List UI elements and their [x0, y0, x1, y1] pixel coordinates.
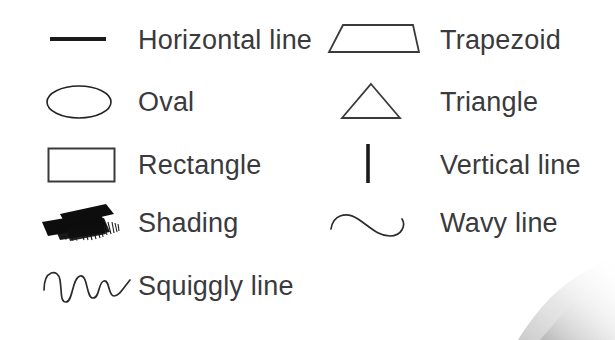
legend-label-rectangle: Rectangle — [138, 147, 261, 183]
rectangle-icon — [40, 145, 122, 185]
legend-label-vertical-line: Vertical line — [440, 147, 581, 183]
legend-label-oval: Oval — [138, 84, 194, 120]
wavy-line-icon — [326, 203, 428, 243]
legend-item-triangle — [326, 84, 416, 120]
vertical-line-icon — [326, 142, 416, 188]
horizontal-line-icon — [40, 22, 110, 58]
legend-label-trapezoid: Trapezoid — [440, 22, 561, 58]
legend-label-squiggly-line: Squiggly line — [138, 268, 294, 304]
oval-icon — [40, 82, 120, 122]
legend-item-horizontal-line — [40, 22, 110, 58]
legend-label-horizontal-line: Horizontal line — [138, 22, 312, 58]
legend-label-shading: Shading — [138, 205, 239, 241]
legend-item-rectangle — [40, 147, 122, 183]
legend-item-oval — [40, 84, 120, 120]
legend-item-wavy-line — [326, 205, 428, 241]
squiggly-line-icon — [40, 264, 138, 308]
legend-item-vertical-line — [326, 147, 416, 183]
legend-label-wavy-line: Wavy line — [440, 205, 558, 241]
legend-item-trapezoid — [326, 22, 422, 58]
page-curl-shadow — [470, 245, 615, 340]
trapezoid-icon — [326, 22, 422, 58]
legend-item-shading — [40, 205, 126, 241]
shading-brush-icon — [40, 200, 126, 246]
triangle-icon — [326, 80, 416, 124]
legend-page: Horizontal line Oval Rectangle — [0, 0, 615, 340]
legend-label-triangle: Triangle — [440, 84, 538, 120]
legend-item-squiggly-line — [40, 268, 138, 304]
